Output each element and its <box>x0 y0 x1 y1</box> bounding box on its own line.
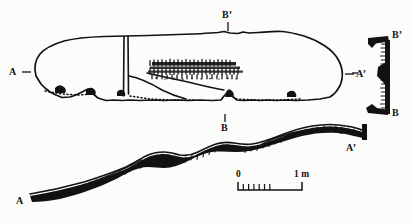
plan-view-group <box>22 22 354 101</box>
plan-label-b-top: B’ <box>222 10 232 20</box>
plan-label-a-right: A’ <box>356 69 366 79</box>
section-aa-right-terminus <box>362 124 367 140</box>
section-aa-fill-body <box>30 127 366 203</box>
plan-label-a-left: A <box>9 67 16 77</box>
scale-bar-zero-label: 0 <box>236 170 241 180</box>
plan-partition-right <box>128 37 129 95</box>
figure-drawing <box>0 0 410 223</box>
section-bb-label-top: B’ <box>392 30 402 40</box>
scale-bar-minor-ticks <box>243 184 269 190</box>
figure-root: A A’ B’ B’ B A A’ B 0 1 m <box>0 0 410 223</box>
plan-outline <box>35 31 342 100</box>
scale-bar-end-label: 1 m <box>294 170 309 180</box>
section-aa-label-left: A <box>16 196 23 206</box>
plan-partition-left <box>124 37 125 97</box>
section-aa-label-right: A’ <box>346 143 356 153</box>
section-bb-bulge <box>377 62 386 86</box>
scale-bar-group <box>238 182 302 190</box>
section-bb-label-bottom: B <box>392 108 399 118</box>
section-aa-label-mid: B <box>221 123 228 133</box>
long-section-aa-group <box>30 114 367 202</box>
